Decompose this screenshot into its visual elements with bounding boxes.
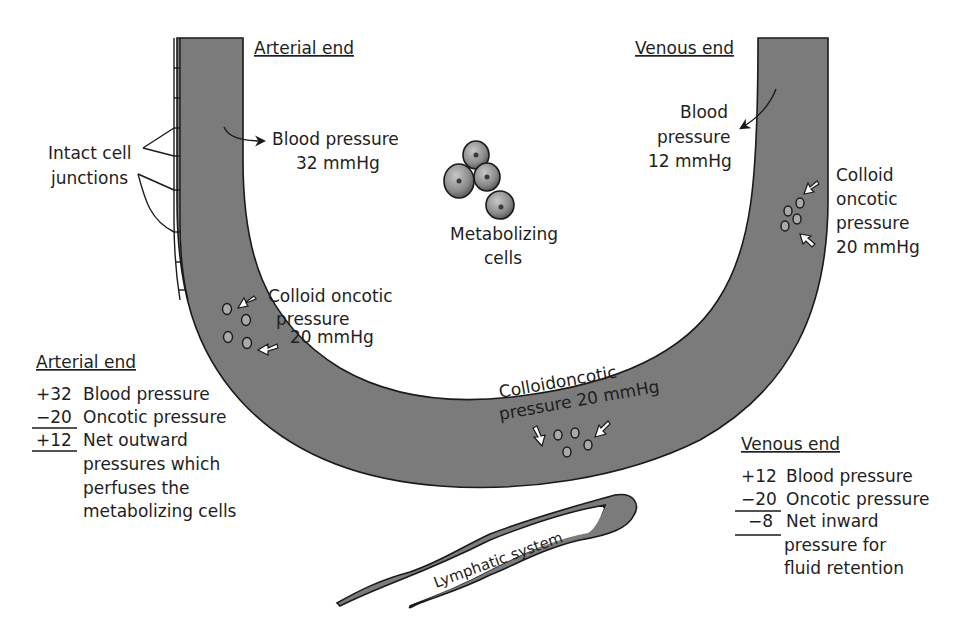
venous-blood-pressure-line3: 12 mmHg: [648, 151, 732, 171]
venous-end-heading: Venous end: [635, 38, 734, 58]
venous-colloid-line1: Colloid: [836, 165, 894, 185]
venous-summary-cont-0: pressure for: [784, 535, 886, 555]
arterial-summary-cont-0: pressures which: [83, 454, 220, 474]
arterial-summary-label-1: Oncotic pressure: [83, 407, 226, 427]
metabolizing-cells-label-line1: Metabolizing: [450, 224, 558, 244]
venous-summary-value-2: −8: [748, 511, 773, 531]
arterial-blood-pressure-line2: 32 mmHg: [296, 153, 380, 173]
arterial-colloid-line1: Colloid oncotic: [268, 286, 393, 306]
arterial-end-heading: Arterial end: [254, 38, 354, 58]
metabolizing-cells-icon: [444, 141, 514, 219]
intact-junctions-label-line2: junctions: [50, 168, 128, 188]
venous-summary-title: Venous end: [741, 434, 840, 454]
arterial-summary-value-2: +12: [36, 430, 72, 450]
intact-junctions-label-line1: Intact cell: [48, 143, 132, 163]
venous-summary-label-0: Blood pressure: [786, 466, 913, 486]
venous-blood-pressure-line1: Blood: [680, 102, 728, 122]
venous-colloid-line2: oncotic: [836, 189, 898, 209]
intact-junctions-pointers: [138, 128, 174, 232]
arterial-colloid-line3: 20 mmHg: [290, 327, 374, 347]
arterial-summary-label-2: Net outward: [83, 430, 188, 450]
venous-summary: Venous end +12 Blood pressure −20 Oncoti…: [735, 434, 929, 578]
venous-summary-value-0: +12: [741, 466, 777, 486]
venous-colloid-line3: pressure: [836, 213, 909, 233]
arterial-summary-value-1: −20: [36, 407, 72, 427]
lymphatic-vessel: [337, 495, 636, 608]
venous-summary-label-2: Net inward: [786, 511, 879, 531]
arterial-colloid-line2: pressure: [276, 309, 349, 329]
venous-blood-pressure-line2: pressure: [657, 127, 730, 147]
venous-colloid-line4: 20 mmHg: [836, 237, 920, 257]
venous-summary-cont-1: fluid retention: [784, 558, 904, 578]
metabolizing-cells-label-line2: cells: [484, 248, 522, 268]
arterial-summary: Arterial end +32 Blood pressure −20 Onco…: [32, 352, 237, 521]
arterial-blood-pressure-line1: Blood pressure: [272, 129, 399, 149]
venous-summary-label-1: Oncotic pressure: [786, 489, 929, 509]
capillary-fluid-exchange-diagram: Intact cell junctions Arterial end Venou…: [0, 0, 957, 628]
arterial-summary-cont-2: metabolizing cells: [83, 501, 237, 521]
arterial-summary-label-0: Blood pressure: [83, 384, 210, 404]
arterial-summary-title: Arterial end: [36, 352, 136, 372]
arterial-summary-cont-1: perfuses the: [83, 478, 189, 498]
lymphatic-system-label: Lymphatic system: [431, 528, 565, 591]
venous-summary-value-1: −20: [741, 489, 777, 509]
arterial-summary-value-0: +32: [36, 384, 72, 404]
